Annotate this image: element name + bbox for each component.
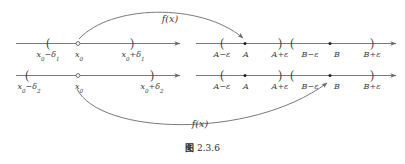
domain-line-2 (16, 74, 180, 78)
tick-paren-open: ( (290, 38, 295, 50)
tick-label-a-minus-eps: A−ε (214, 82, 231, 91)
tick-label-b: B (334, 50, 340, 59)
filled-dot-marker-a (244, 42, 247, 45)
caption-number: 2.3.6 (197, 143, 220, 153)
tick-label-b: B (334, 82, 340, 91)
tick-label-x0-plus-delta1: x0+δ1 (121, 50, 144, 59)
open-circle-marker (76, 42, 80, 46)
mapping-label-bottom: f(x) (192, 118, 208, 129)
tick-label-a: A (243, 50, 249, 59)
tick-label-b-minus-eps: B−ε (302, 82, 319, 91)
tick-label-b-plus-eps: B+ε (364, 82, 381, 91)
tick-label-b-plus-eps: B+ε (364, 50, 381, 59)
filled-dot-marker-a (244, 74, 247, 77)
filled-dot-marker-b (329, 42, 332, 45)
tick-label-x0-minus-delta2: x0−δ2 (17, 82, 40, 91)
range-line-1 (196, 42, 396, 45)
tick-paren-close: ) (370, 38, 375, 50)
mapping-label-top: f(x) (162, 13, 178, 24)
tick-paren-close: ) (370, 70, 375, 82)
tick-label-a-minus-eps: A−ε (214, 50, 231, 59)
tick-paren-open: ( (220, 38, 225, 50)
tick-label-x0-minus-delta1: x0−δ1 (36, 50, 59, 59)
tick-paren-close: ) (278, 70, 283, 82)
tick-label-x0: x0 (75, 50, 83, 59)
tick-label-x0: x0 (75, 82, 83, 91)
tick-label-a: A (243, 82, 249, 91)
tick-paren-open: ( (46, 38, 51, 50)
open-circle-marker (76, 74, 80, 78)
tick-label-a-plus-eps: A+ε (272, 82, 289, 91)
tick-label-x0-plus-delta2: x0+δ2 (140, 82, 163, 91)
range-line-2 (196, 74, 396, 77)
figure-caption: 图 2.3.6 (0, 141, 405, 154)
caption-cjk-label: 图 (185, 143, 194, 153)
diagram-canvas (0, 0, 405, 164)
tick-paren-open: ( (220, 70, 225, 82)
tick-label-a-plus-eps: A+ε (272, 50, 289, 59)
tick-label-b-minus-eps: B−ε (302, 50, 319, 59)
filled-dot-marker-b (329, 74, 332, 77)
tick-paren-close: ) (278, 38, 283, 50)
domain-line-1 (16, 42, 180, 46)
tick-paren-open: ( (290, 70, 295, 82)
figure-container: ( ) ( ) ( ) ( ) ( ) ( ) x0−δ1 x0 x0+δ1 A… (0, 0, 405, 164)
tick-paren-close: ) (130, 38, 135, 50)
tick-paren-close: ) (150, 70, 155, 82)
tick-paren-open: ( (25, 70, 30, 82)
